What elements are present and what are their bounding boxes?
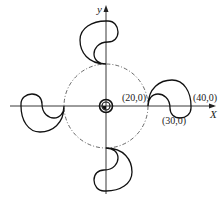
point-label-30-0: (30,0)	[162, 115, 186, 127]
y-axis-label: y	[96, 3, 102, 15]
point-label-40-0: (40,0)	[193, 92, 217, 104]
lobe-bottom	[94, 148, 132, 191]
lobe-right	[148, 80, 191, 118]
y-axis-arrow-icon	[104, 5, 109, 12]
hub-icon	[100, 100, 113, 113]
diagram-canvas: y X (20,0) (40,0) (30,0)	[0, 0, 224, 204]
point-label-20-0: (20,0)	[122, 92, 146, 104]
lobe-left	[21, 94, 64, 132]
lobe-top	[80, 21, 118, 64]
x-axis-label: X	[209, 108, 218, 120]
cam-diagram: y X (20,0) (40,0) (30,0)	[0, 0, 224, 204]
